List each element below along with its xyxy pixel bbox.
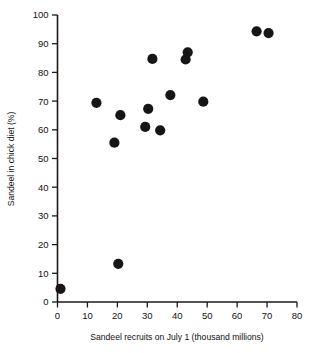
- x-tick-label: 30: [142, 310, 153, 321]
- x-tick-label: 70: [262, 310, 273, 321]
- y-tick-label: 90: [38, 38, 49, 49]
- x-tick-label: 0: [55, 310, 60, 321]
- data-point: [143, 104, 153, 114]
- x-tick-label: 20: [112, 310, 123, 321]
- scatter-plot: 0102030405060708090100 01020304050607080…: [0, 0, 320, 353]
- x-tick-label: 50: [202, 310, 213, 321]
- data-point: [251, 26, 261, 36]
- x-tick-label: 60: [232, 310, 243, 321]
- y-tick-label: 40: [38, 182, 49, 193]
- data-point: [109, 138, 119, 148]
- x-tick-label: 10: [82, 310, 93, 321]
- data-point: [183, 47, 193, 57]
- data-point: [155, 125, 165, 135]
- x-tick-label: 40: [172, 310, 183, 321]
- plot-canvas: 0102030405060708090100 01020304050607080…: [0, 0, 320, 353]
- x-tick-label: 80: [292, 310, 303, 321]
- data-point: [113, 259, 123, 269]
- data-point: [115, 110, 125, 120]
- data-point: [55, 284, 65, 294]
- x-axis-title: Sandeel recruits on July 1 (thousand mil…: [90, 332, 264, 342]
- data-point: [91, 98, 101, 108]
- data-point: [147, 54, 157, 64]
- x-axis-tick-labels: 01020304050607080: [55, 310, 302, 321]
- y-tick-label: 100: [33, 9, 49, 20]
- y-tick-label: 0: [43, 296, 48, 307]
- y-tick-label: 10: [38, 268, 49, 279]
- y-tick-label: 50: [38, 153, 49, 164]
- y-axis-title: Sandeel in chick diet (%): [6, 112, 16, 207]
- data-point: [140, 122, 150, 132]
- y-tick-label: 70: [38, 96, 49, 107]
- y-tick-label: 60: [38, 124, 49, 135]
- y-tick-label: 80: [38, 67, 49, 78]
- data-point: [263, 28, 273, 38]
- y-tick-label: 20: [38, 239, 49, 250]
- data-point: [165, 90, 175, 100]
- y-tick-label: 30: [38, 210, 49, 221]
- data-point: [198, 97, 208, 107]
